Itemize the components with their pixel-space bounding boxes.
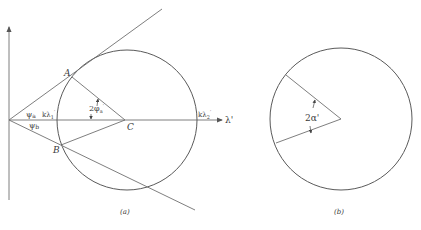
two-phi-a-label: 2φa′ — [89, 103, 105, 114]
alpha-arrow-up — [313, 100, 315, 108]
point-C-label: C — [127, 122, 134, 132]
caption-a: (a) — [120, 208, 130, 216]
point-A-label: A — [63, 68, 71, 78]
segment-BC — [61, 120, 125, 145]
panel-b: 2α' (b) — [270, 48, 412, 216]
psi-a-label: ψa — [26, 110, 36, 119]
lambda-axis-label: λ' — [225, 115, 233, 125]
k-lambda-2-label: kλ2′ — [198, 109, 212, 120]
segment-AC — [72, 77, 125, 120]
psi-b-label: ψb — [29, 121, 39, 130]
caption-b: (b) — [334, 208, 344, 216]
panel-a: A B C ψa ψb kλ1′ 2φa′ kλ2′ λ' (a) — [9, 9, 233, 216]
point-B-label: B — [52, 145, 60, 155]
two-alpha-label: 2α' — [305, 113, 319, 123]
alpha-arrow-down — [310, 126, 311, 133]
figure-canvas: A B C ψa ψb kλ1′ 2φa′ kλ2′ λ' (a) 2α' (b… — [0, 0, 421, 230]
k-lambda-1-label: kλ1′ — [42, 109, 56, 120]
lower-ray — [9, 120, 195, 210]
upper-ray — [9, 9, 162, 120]
